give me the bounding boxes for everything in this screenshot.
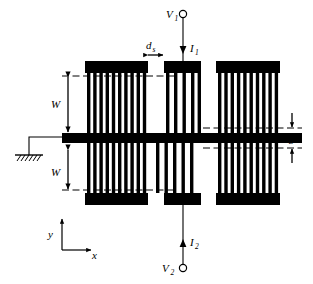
stator-left-bottom [85, 141, 148, 205]
coordinate-axes [62, 219, 91, 250]
ground-anchor [15, 137, 62, 161]
label-axis-y: y [47, 228, 53, 240]
label-i2-subscript: 2 [195, 242, 199, 251]
figure-canvas: V 1 I 1 I 2 V 2 d s W W g y x [0, 0, 313, 284]
open-circle-icon-v2 [179, 264, 186, 271]
terminal-v2 [179, 205, 186, 272]
label-ds: d [146, 39, 152, 51]
rotor-center-top [164, 61, 201, 135]
shuttle-beam [62, 133, 302, 143]
label-v2-subscript: 2 [171, 268, 175, 277]
label-v1-subscript: 1 [175, 14, 179, 23]
label-i1-subscript: 1 [195, 48, 199, 57]
stator-right-bottom [216, 141, 280, 205]
ground-hatch-icon [17, 155, 41, 161]
label-ds-subscript: s [153, 45, 156, 54]
current-arrow-i2-icon [180, 239, 187, 247]
comb-drive-diagram: V 1 I 1 I 2 V 2 d s W W g y x [0, 0, 313, 284]
open-circle-icon [179, 10, 186, 17]
terminal-v1 [179, 10, 186, 61]
label-g: g [289, 132, 295, 144]
label-w-top: W [51, 98, 61, 110]
rotor-center-bottom [156, 141, 201, 205]
label-v2: V [162, 262, 170, 274]
label-axis-x: x [91, 249, 97, 261]
stator-right-top [216, 61, 280, 135]
label-w-bottom: W [51, 166, 61, 178]
current-arrow-i1-icon [180, 46, 187, 54]
stator-left-top [85, 61, 148, 135]
label-v1: V [166, 8, 174, 20]
